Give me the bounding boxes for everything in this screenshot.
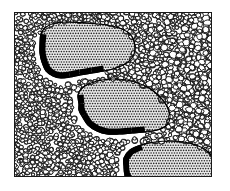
conglomerate-texture-illustration [0,0,230,191]
figure-container [0,0,230,191]
